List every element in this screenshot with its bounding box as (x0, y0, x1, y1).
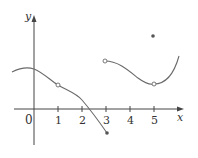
isolated-point-x5 (151, 34, 155, 38)
function-graph: y x 0 1 2 3 4 5 (0, 0, 198, 158)
tick-label-2: 2 (79, 114, 86, 127)
closed-dot-x3 (105, 131, 109, 135)
curve-right-piece (105, 56, 179, 84)
open-circle-x5 (152, 82, 156, 86)
origin-label: 0 (25, 113, 33, 127)
open-circle-x3 (103, 59, 107, 63)
x-axis-label: x (177, 111, 184, 124)
tick-label-1: 1 (55, 114, 62, 127)
tick-label-5: 5 (151, 114, 158, 127)
tick-label-3: 3 (103, 114, 110, 127)
y-axis-label: y (24, 10, 32, 23)
y-axis-arrow-icon (32, 15, 37, 22)
open-circle-x1 (56, 83, 60, 87)
graph-canvas: y x 0 1 2 3 4 5 (0, 0, 198, 158)
tick-label-4: 4 (127, 114, 134, 127)
